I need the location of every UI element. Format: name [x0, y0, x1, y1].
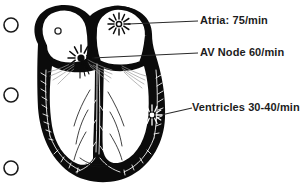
diagram-canvas	[0, 0, 308, 187]
binder-hole-middle	[4, 88, 18, 102]
diagram-page: Atria: 75/min AV Node 60/min Ventricles …	[0, 0, 308, 187]
binder-hole-top	[4, 18, 18, 32]
label-av-node: AV Node 60/min	[200, 47, 284, 58]
binder-hole-bottom	[4, 161, 18, 175]
label-ventricles: Ventricles 30-40/min	[192, 102, 300, 113]
ventricles-leader-line	[161, 108, 192, 115]
binder-holes-group	[4, 18, 18, 175]
heart-figure	[34, 5, 165, 182]
label-atria: Atria: 75/min	[200, 15, 268, 26]
